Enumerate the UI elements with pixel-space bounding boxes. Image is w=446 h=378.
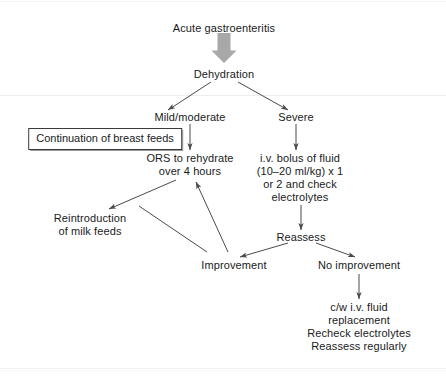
edge-reintroduction-improvement xyxy=(139,206,207,252)
node-acute-gastroenteritis-label: Acute gastroenteritis xyxy=(173,22,275,35)
edge-dehydration-mild xyxy=(168,82,211,110)
node-continue-iv-line-2: replacement xyxy=(307,314,411,327)
node-mild-moderate-label: Mild/moderate xyxy=(155,111,226,124)
node-reassess: Reassess xyxy=(276,231,325,244)
node-reassess-label: Reassess xyxy=(276,231,325,244)
node-severe: Severe xyxy=(278,111,313,124)
flowchart-canvas: Acute gastroenteritis Dehydration Mild/m… xyxy=(0,0,446,378)
block-arrow-down xyxy=(212,33,237,63)
node-improvement-label: Improvement xyxy=(201,259,266,272)
node-no-improvement: No improvement xyxy=(318,259,400,272)
node-dehydration-label: Dehydration xyxy=(194,68,254,81)
node-severe-label: Severe xyxy=(278,111,313,124)
scan-artifact-top xyxy=(0,1,446,2)
edge-reassess-no-improvement xyxy=(316,243,355,257)
node-continue-iv-fluid: c/w i.v. fluid replacement Recheck elect… xyxy=(307,301,411,353)
node-mild-moderate: Mild/moderate xyxy=(155,111,226,124)
scan-artifact-bottom-2 xyxy=(0,370,446,371)
node-ors-line-1: ORS to rehydrate xyxy=(146,152,233,165)
node-iv-bolus: i.v. bolus of fluid (10–20 ml/kg) x 1 or… xyxy=(257,152,344,204)
edge-dehydration-severe xyxy=(238,82,288,110)
node-acute-gastroenteritis: Acute gastroenteritis xyxy=(173,22,275,35)
node-iv-bolus-line-2: (10–20 ml/kg) x 1 xyxy=(257,165,344,178)
node-continuation-of-breast-feeds-label: Continuation of breast feeds xyxy=(36,132,174,144)
node-dehydration: Dehydration xyxy=(194,68,254,81)
edge-reassess-improvement xyxy=(240,243,288,257)
node-reintroduction-line-1: Reintroduction xyxy=(54,212,126,225)
node-iv-bolus-line-1: i.v. bolus of fluid xyxy=(257,152,344,165)
node-continue-iv-line-4: Reassess regularly xyxy=(307,340,411,353)
scan-artifact-bottom xyxy=(0,368,446,369)
scan-artifact-middle xyxy=(0,95,446,96)
node-ors-line-2: over 4 hours xyxy=(146,165,233,178)
node-iv-bolus-line-4: electrolytes xyxy=(257,191,344,204)
node-continuation-of-breast-feeds: Continuation of breast feeds xyxy=(28,128,182,150)
node-ors: ORS to rehydrate over 4 hours xyxy=(146,152,233,178)
node-no-improvement-label: No improvement xyxy=(318,259,400,272)
node-reintroduction-of-milk-feeds: Reintroduction of milk feeds xyxy=(54,212,126,238)
node-iv-bolus-line-3: or 2 and check xyxy=(257,178,344,191)
edge-improvement-ors xyxy=(196,182,228,252)
node-continue-iv-line-3: Recheck electrolytes xyxy=(307,327,411,340)
node-reintroduction-line-2: of milk feeds xyxy=(54,225,126,238)
edge-ors-reintroduction xyxy=(109,180,176,209)
node-improvement: Improvement xyxy=(201,259,266,272)
node-continue-iv-line-1: c/w i.v. fluid xyxy=(307,301,411,314)
